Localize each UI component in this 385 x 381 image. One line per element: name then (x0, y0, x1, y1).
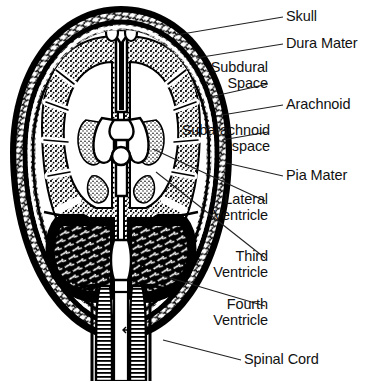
label-skull: Skull (286, 9, 317, 25)
label-third-ventricle: Third Ventricle (213, 249, 268, 280)
label-pia-mater: Pia Mater (286, 168, 347, 184)
label-fourth-ventricle: Fourth Ventricle (213, 297, 268, 328)
anatomical-diagram: SkullDura MaterSubdural SpaceArachnoidSu… (0, 0, 385, 381)
label-dura-mater: Dura Mater (286, 36, 358, 52)
fourth-ventricle (111, 240, 131, 280)
label-subdural-space: Subdural Space (211, 60, 268, 91)
label-spinal-cord: Spinal Cord (244, 352, 319, 368)
label-subarachnoid-space: Subarachnoid space (182, 123, 270, 154)
label-lateral-ventricle: Lateral Ventricle (213, 192, 268, 223)
brain-coronal-section-illustration (0, 0, 385, 381)
label-arachnoid: Arachnoid (286, 97, 350, 113)
